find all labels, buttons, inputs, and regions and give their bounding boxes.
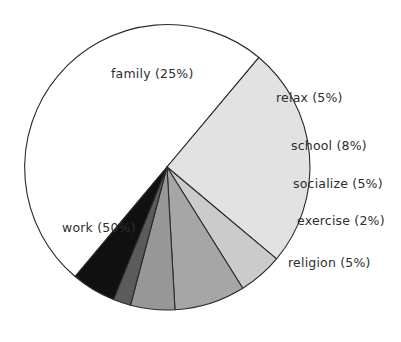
slice-label-relax: relax (5%) xyxy=(276,92,343,105)
slice-label-exercise: exercise (2%) xyxy=(297,215,385,228)
slice-label-school: school (8%) xyxy=(291,140,367,153)
pie-chart-figure: family (25%) relax (5%) school (8%) soci… xyxy=(0,0,401,342)
pie-chart-canvas xyxy=(0,0,401,342)
slice-label-family: family (25%) xyxy=(111,68,194,81)
slice-label-religion: religion (5%) xyxy=(288,257,371,270)
slice-label-socialize: socialize (5%) xyxy=(293,178,383,191)
slice-label-work: work (50%) xyxy=(62,222,136,235)
